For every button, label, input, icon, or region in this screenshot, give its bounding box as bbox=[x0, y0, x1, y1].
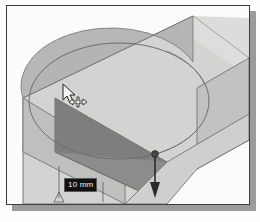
3d-modeling-viewport[interactable] bbox=[7, 6, 249, 204]
figure-root: 10 mm bbox=[0, 0, 260, 222]
cad-viewport-frame[interactable]: 10 mm bbox=[6, 5, 250, 205]
scene-svg bbox=[7, 6, 249, 204]
dimension-value-tooltip[interactable]: 10 mm bbox=[64, 178, 97, 192]
